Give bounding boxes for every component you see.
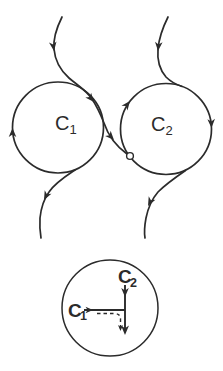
- arrow-incoming-left-final: [105, 131, 117, 143]
- cycle-c1-label-subscript: 1: [70, 122, 77, 137]
- phase-portrait-figure: C 1 C 2 C 1 C 2: [0, 0, 223, 371]
- incoming-trajectory-right: [158, 17, 182, 87]
- rest-point-marker: [127, 153, 134, 160]
- cycle-c2-label: C: [151, 113, 165, 135]
- cycle-c2-label-subscript: 2: [166, 123, 173, 138]
- cycle-c1-label: C: [55, 112, 69, 134]
- figure-page: C 1 C 2 C 1 C 2: [0, 0, 223, 371]
- inset-c1-label-subscript: 1: [80, 309, 87, 323]
- inset-c2-label-subscript: 2: [130, 276, 137, 290]
- top-diagram: [13, 17, 212, 238]
- inset-dashed-trajectory: [97, 314, 121, 330]
- outgoing-trajectory-left: [40, 170, 75, 238]
- outgoing-trajectory-right: [144, 171, 185, 239]
